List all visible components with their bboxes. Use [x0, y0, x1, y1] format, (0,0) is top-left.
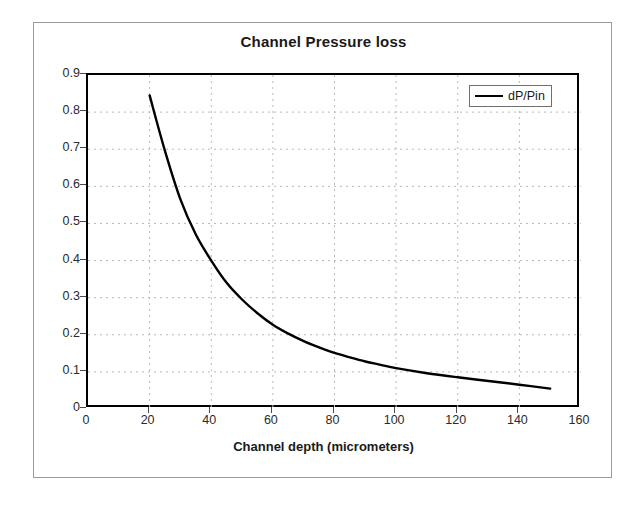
y-tick-label: 0.9: [40, 67, 80, 79]
y-tick-mark: [80, 184, 86, 185]
x-tick-label: 40: [184, 413, 234, 427]
y-tick-mark: [80, 147, 86, 148]
x-axis-title: Channel depth (micrometers): [34, 439, 613, 454]
chart-screenshot: Channel Pressure loss 00.10.20.30.40.50.…: [0, 0, 640, 505]
x-tick-label: 160: [554, 413, 604, 427]
plot-area: [86, 73, 579, 407]
series-paths: [150, 95, 551, 388]
y-tick-mark: [80, 221, 86, 222]
y-tick-label: 0.3: [40, 290, 80, 302]
y-tick-mark: [80, 259, 86, 260]
y-tick-label: 0.1: [40, 364, 80, 376]
x-tick-mark: [517, 407, 518, 413]
x-tick-mark: [148, 407, 149, 413]
plot-svg: [88, 75, 581, 409]
x-axis-labels: 020406080100120140160: [86, 413, 579, 433]
x-tick-mark: [333, 407, 334, 413]
y-tick-label: 0: [40, 401, 80, 413]
x-tick-mark: [394, 407, 395, 413]
x-tick-mark: [209, 407, 210, 413]
x-tick-label: 20: [123, 413, 173, 427]
y-tick-mark: [80, 370, 86, 371]
y-tick-label: 0.5: [40, 215, 80, 227]
x-tick-mark: [456, 407, 457, 413]
y-tick-label: 0.7: [40, 141, 80, 153]
y-tick-label: 0.8: [40, 104, 80, 116]
y-tick-mark: [80, 333, 86, 334]
y-tick-label: 0.4: [40, 253, 80, 265]
gridlines: [88, 75, 581, 409]
series-line-0: [150, 95, 551, 388]
x-tick-label: 80: [308, 413, 358, 427]
x-tick-label: 100: [369, 413, 419, 427]
y-axis-labels: 00.10.20.30.40.50.60.70.80.9: [34, 73, 80, 407]
y-tick-label: 0.2: [40, 327, 80, 339]
x-tick-label: 60: [246, 413, 296, 427]
y-tick-mark: [80, 110, 86, 111]
legend-line-swatch: [475, 95, 503, 97]
x-tick-mark: [271, 407, 272, 413]
x-tick-label: 120: [431, 413, 481, 427]
x-tick-label: 140: [492, 413, 542, 427]
chart-title: Channel Pressure loss: [34, 33, 613, 50]
x-tick-label: 0: [61, 413, 111, 427]
y-tick-label: 0.6: [40, 178, 80, 190]
y-tick-mark: [80, 296, 86, 297]
y-tick-mark: [80, 407, 86, 408]
y-tick-mark: [80, 73, 86, 74]
chart-frame: Channel Pressure loss 00.10.20.30.40.50.…: [33, 22, 612, 478]
legend-label-dp-pin: dP/Pin: [508, 89, 545, 103]
chart-legend: dP/Pin: [469, 85, 552, 107]
